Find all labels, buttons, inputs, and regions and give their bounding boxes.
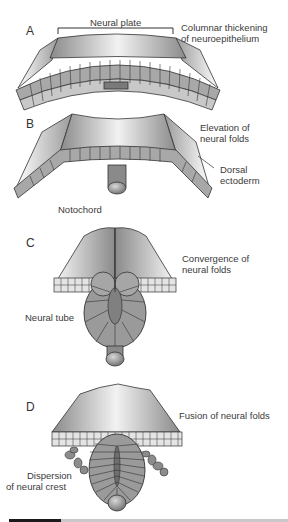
notochord-a: [104, 82, 128, 89]
label-neural-plate: Neural plate: [90, 17, 141, 28]
notochord-d: [108, 495, 126, 511]
label-notochord: Notochord: [58, 204, 102, 215]
label-convergence-line2: neural folds: [182, 264, 231, 275]
panel-b-illustration: [14, 114, 214, 198]
label-columnar-thickening-line1: Columnar thickening: [181, 22, 268, 33]
label-elevation-line2: neural folds: [200, 133, 249, 144]
label-dispersion-line1: Dispersion: [27, 470, 72, 481]
panel-c-illustration: [54, 228, 176, 366]
label-columnar-thickening-line2: of neuroepithelium: [181, 33, 259, 44]
panel-d-illustration: [52, 384, 182, 511]
label-elevation-line1: Elevation of: [200, 122, 250, 133]
label-fusion: Fusion of neural folds: [179, 410, 270, 421]
label-convergence-line1: Convergence of: [182, 253, 249, 264]
neural-plate-bracket: [58, 28, 173, 34]
label-neural-tube: Neural tube: [25, 312, 74, 323]
panel-letter-a: A: [26, 24, 34, 38]
label-dorsal-ectoderm-line2: ectoderm: [220, 175, 260, 186]
panel-letter-c: C: [26, 236, 35, 250]
notochord-b: [108, 182, 126, 194]
label-dispersion-line2: of neural crest: [6, 481, 66, 492]
panel-letter-d: D: [26, 400, 35, 414]
panel-letter-b: B: [26, 117, 34, 131]
label-dorsal-ectoderm-line1: Dorsal: [220, 164, 247, 175]
notochord-c: [106, 352, 124, 366]
